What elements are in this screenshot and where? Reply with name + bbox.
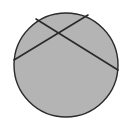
circle-diagram bbox=[0, 0, 124, 124]
